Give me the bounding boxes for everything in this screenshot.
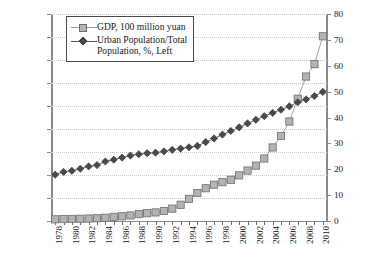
gdp-data-point	[118, 213, 125, 220]
gdp-data-point	[185, 195, 192, 202]
gdp-data-point	[244, 167, 251, 174]
gdp-data-point	[319, 33, 326, 40]
gdp-data-point	[311, 61, 318, 68]
urban-data-point	[227, 127, 234, 134]
gdp-data-point	[277, 132, 284, 139]
urban-data-point	[135, 151, 142, 158]
urban-data-point	[102, 158, 109, 165]
urban-data-point	[286, 103, 293, 110]
urban-data-point	[77, 165, 84, 172]
legend-item-urban: Urban Population/Total Population, %, Le…	[71, 34, 187, 56]
gdp-data-point	[77, 215, 84, 222]
legend-square-marker-icon	[71, 22, 97, 34]
gdp-data-point	[169, 205, 176, 212]
urban-data-point	[311, 92, 318, 99]
gdp-data-point	[261, 155, 268, 162]
gdp-data-point	[177, 201, 184, 208]
gdp-data-point	[52, 216, 59, 223]
urban-data-point	[60, 168, 67, 175]
urban-series-markers	[52, 88, 327, 178]
gdp-data-point	[60, 216, 67, 223]
urban-data-point	[269, 109, 276, 116]
gdp-series-line	[55, 36, 323, 219]
gdp-data-point	[227, 176, 234, 183]
chart-legend: GDP, 100 million yuan Urban Population/T…	[66, 16, 194, 62]
urban-data-point	[252, 116, 259, 123]
urban-data-point	[68, 167, 75, 174]
urban-data-point	[277, 106, 284, 113]
urban-data-point	[236, 124, 243, 131]
urban-data-point	[110, 156, 117, 163]
urban-data-point	[302, 96, 309, 103]
gdp-data-point	[236, 172, 243, 179]
urban-data-point	[52, 171, 59, 178]
gdp-data-point	[210, 181, 217, 188]
urban-data-point	[244, 120, 251, 127]
legend-item-gdp: GDP, 100 million yuan	[71, 21, 187, 34]
gdp-data-point	[202, 185, 209, 192]
urban-data-point	[219, 131, 226, 138]
urban-data-point	[152, 149, 159, 156]
urban-data-point	[160, 148, 167, 155]
gdp-data-point	[93, 215, 100, 222]
urban-data-point	[93, 162, 100, 169]
urban-data-point	[202, 138, 209, 145]
gdp-data-point	[85, 215, 92, 222]
urban-data-point	[144, 150, 151, 157]
urban-data-point	[185, 144, 192, 151]
gdp-data-point	[68, 215, 75, 222]
gdp-data-point	[160, 207, 167, 214]
gdp-data-point	[152, 209, 159, 216]
gdp-data-point	[286, 118, 293, 125]
gdp-data-point	[219, 179, 226, 186]
gdp-data-point	[102, 214, 109, 221]
urban-data-point	[85, 163, 92, 170]
urban-data-point	[210, 135, 217, 142]
urban-data-point	[261, 113, 268, 120]
gdp-data-point	[252, 162, 259, 169]
gdp-data-point	[144, 210, 151, 217]
gdp-data-point	[127, 212, 134, 219]
legend-diamond-marker-icon	[71, 35, 97, 47]
gdp-data-point	[302, 73, 309, 80]
urban-data-point	[169, 146, 176, 153]
chart-container: 050 000100 000150 000200 000250 000300 0…	[0, 0, 375, 274]
urban-data-point	[118, 154, 125, 161]
urban-data-point	[319, 88, 326, 95]
legend-label-urban: Urban Population/Total Population, %, Le…	[97, 34, 187, 56]
gdp-data-point	[110, 213, 117, 220]
gdp-data-point	[194, 189, 201, 196]
gdp-data-point	[135, 210, 142, 217]
urban-data-point	[127, 152, 134, 159]
gdp-data-point	[269, 144, 276, 151]
urban-data-point	[177, 145, 184, 152]
urban-data-point	[194, 142, 201, 149]
legend-label-gdp: GDP, 100 million yuan	[97, 21, 185, 32]
